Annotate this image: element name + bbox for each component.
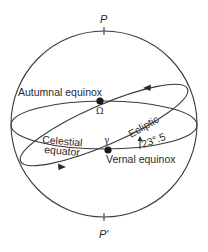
obliquity-label: 23°.5 [140,130,167,150]
celestial-equator-label-line2: equator [44,143,81,158]
autumnal-equinox-label: Autumnal equinox [18,86,103,98]
vernal-equinox-symbol: γ [104,135,109,145]
celestial-sphere-diagram: P P′ Autumnal equinox Ω γ Vernal equinox… [0,0,208,252]
vernal-equinox-label: Vernal equinox [106,153,176,165]
south-pole-label: P′ [99,228,109,240]
ecliptic-arrow-upper-icon [143,85,151,92]
ecliptic-arrow-lower-icon [58,164,66,171]
autumnal-equinox-symbol: Ω [96,106,103,116]
north-pole-label: P [100,13,108,25]
autumnal-equinox-point [96,97,103,104]
celestial-sphere-outline [11,31,197,217]
